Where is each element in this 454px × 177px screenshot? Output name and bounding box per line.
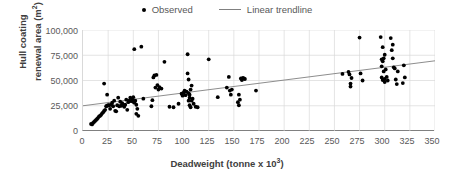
legend-label-trendline: Linear trendline [247,4,313,15]
y-axis-title-line2: renewal area (m2) [33,2,44,81]
y-axis-title-line1: Hull coating [17,14,28,68]
line-icon [219,9,241,10]
plot-canvas [83,30,435,131]
y-tick-label-0: 0 [32,126,78,136]
y-tick-label-75000: 75,000 [32,51,78,61]
y-tick-label-25000: 25,000 [32,101,78,111]
dot-icon [142,8,146,12]
x-axis-title: Deadweight (tonne x 103) [0,157,454,169]
scatter-chart: Observed Linear trendline Hull coating r… [0,0,454,177]
legend-label-observed: Observed [152,4,193,15]
legend-item-linear-trendline: Linear trendline [219,4,313,15]
x-tick-label-350: 350 [417,136,447,146]
y-tick-label-100000: 100,000 [32,26,78,36]
plot-area [82,30,434,131]
legend-item-observed: Observed [142,4,193,15]
chart-legend: Observed Linear trendline [0,4,454,15]
y-tick-label-50000: 50,000 [32,76,78,86]
